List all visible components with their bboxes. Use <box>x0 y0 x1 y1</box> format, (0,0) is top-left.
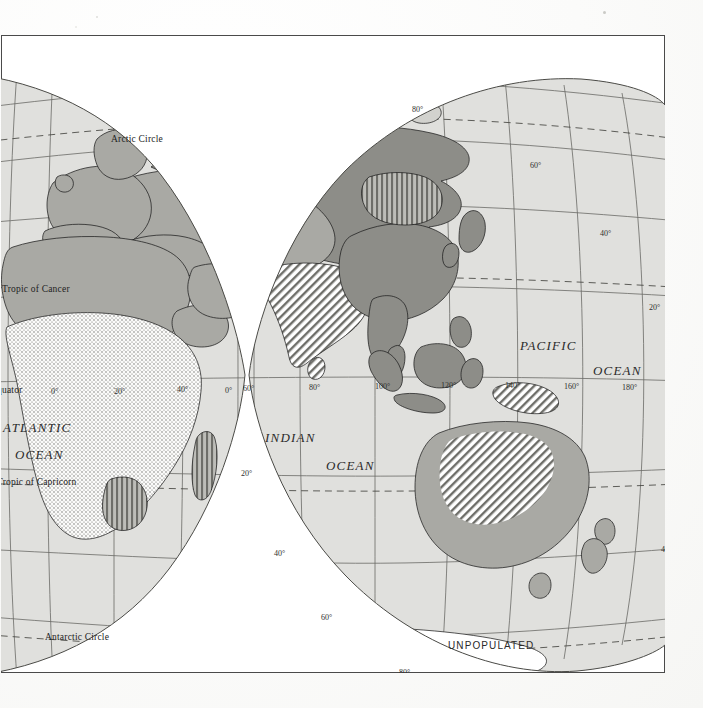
british-isles <box>55 175 73 192</box>
svalbard-novaya-zemlya <box>231 104 270 127</box>
scan-page: ATLANTICOCEANINDIANOCEANPACIFICOCEAN Arc… <box>0 0 703 708</box>
scan-speck-icon <box>96 16 98 18</box>
map-viewport[interactable]: ATLANTICOCEANINDIANOCEANPACIFICOCEAN Arc… <box>1 35 665 673</box>
southern-africa-vertical-hatch <box>103 477 148 531</box>
east-siberia-vertical-hatch <box>362 173 443 226</box>
tasmania <box>529 573 551 598</box>
philippines <box>450 317 471 348</box>
scan-speck-icon <box>75 26 77 28</box>
arabian-peninsula <box>188 264 256 319</box>
borneo <box>414 344 466 388</box>
world-map-graphic[interactable] <box>1 35 665 673</box>
arctic-island-group <box>283 98 317 119</box>
scan-speck-icon <box>603 11 606 14</box>
